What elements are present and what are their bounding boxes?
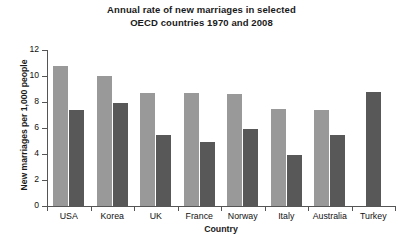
bar-turkey-2008	[366, 92, 381, 206]
y-tick-label-8: 8	[34, 96, 39, 106]
bar-australia-1970	[314, 110, 329, 206]
bar-france-1970	[184, 93, 199, 206]
y-tick-2: 2	[42, 180, 47, 181]
y-tick-label-2: 2	[34, 174, 39, 184]
bar-chart-figure: Annual rate of new marriages in selected…	[0, 0, 403, 252]
category-label-australia: Australia	[308, 211, 352, 221]
bar-korea-1970	[97, 76, 112, 206]
bar-italy-2008	[287, 155, 302, 206]
bar-usa-2008	[69, 110, 84, 206]
chart-title: Annual rate of new marriages in selected…	[0, 4, 403, 29]
bar-italy-1970	[271, 109, 286, 207]
y-axis-line	[47, 50, 48, 207]
chart-title-line-1: Annual rate of new marriages in selected	[0, 4, 403, 17]
y-tick-label-10: 10	[29, 70, 39, 80]
x-axis-title: Country	[47, 224, 395, 234]
bar-norway-2008	[243, 129, 258, 206]
y-tick-6: 6	[42, 128, 47, 129]
x-tick-8	[395, 206, 396, 211]
chart-title-line-2: OECD countries 1970 and 2008	[0, 17, 403, 30]
category-label-turkey: Turkey	[352, 211, 396, 221]
y-tick-label-6: 6	[34, 122, 39, 132]
bar-usa-1970	[53, 66, 68, 206]
y-tick-8: 8	[42, 102, 47, 103]
y-tick-label-0: 0	[34, 200, 39, 210]
category-label-usa: USA	[47, 211, 91, 221]
y-tick-10: 10	[42, 76, 47, 77]
bar-france-2008	[200, 142, 215, 206]
bar-norway-1970	[227, 94, 242, 206]
bar-uk-1970	[140, 93, 155, 206]
category-label-france: France	[178, 211, 222, 221]
bar-uk-2008	[156, 135, 171, 207]
category-label-norway: Norway	[221, 211, 265, 221]
y-tick-label-4: 4	[34, 148, 39, 158]
plot-area: 024681012 USAKoreaUKFranceNorwayItalyAus…	[47, 50, 395, 206]
bar-korea-2008	[113, 103, 128, 206]
y-tick-12: 12	[42, 50, 47, 51]
y-tick-label-12: 12	[29, 44, 39, 54]
category-label-italy: Italy	[265, 211, 309, 221]
category-label-korea: Korea	[91, 211, 135, 221]
y-tick-4: 4	[42, 154, 47, 155]
category-label-uk: UK	[134, 211, 178, 221]
bar-australia-2008	[330, 135, 345, 207]
y-axis-title: New marriages per 1,000 people	[19, 35, 29, 215]
